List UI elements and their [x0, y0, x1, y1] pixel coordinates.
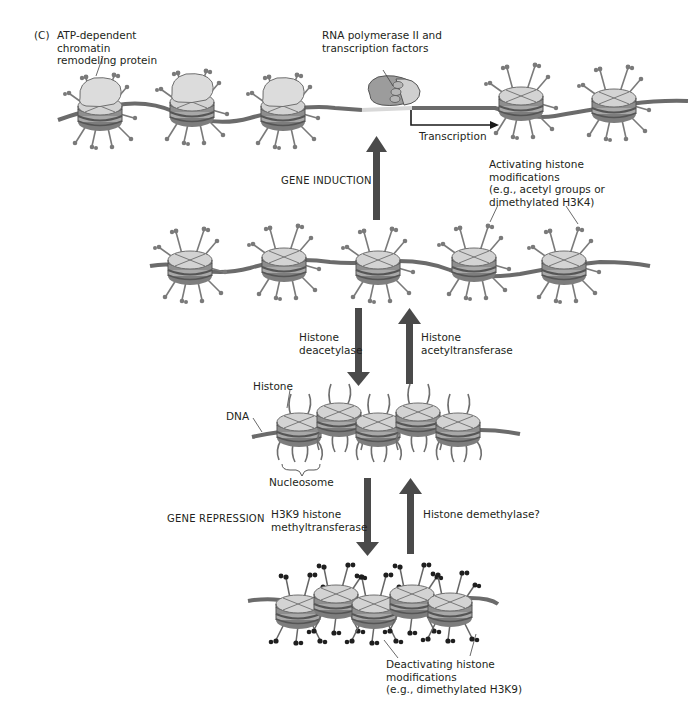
gene-repression-label: GENE REPRESSION [167, 513, 265, 524]
chromatin-diagram [0, 0, 699, 725]
row-activated [150, 205, 650, 304]
rna-polymerase [368, 76, 420, 106]
panel-label: (C) [34, 29, 50, 42]
nucleosome-brace [282, 464, 320, 476]
transcription-label: Transcription [419, 130, 487, 143]
row-repressed [248, 562, 498, 658]
remodeler-label: ATP-dependent chromatin remodeling prote… [57, 29, 157, 67]
methyltransferase-label: H3K9 histone methyltransferase [271, 508, 367, 533]
row-transcribing [58, 56, 688, 150]
histone-label: Histone [253, 380, 293, 393]
activating-label: Activating histone modifications (e.g., … [489, 158, 605, 208]
demethylase-arrow [399, 478, 422, 554]
dna-label: DNA [226, 410, 249, 423]
transcription-arrow [411, 110, 490, 125]
row-unmodified [252, 384, 520, 476]
deacetylase-label: Histone deacetylase [299, 331, 362, 356]
deactivating-label: Deactivating histone modifications (e.g.… [386, 658, 522, 696]
polymerase-label: RNA polymerase II and transcription fact… [322, 29, 442, 54]
acetyltransferase-arrow [398, 308, 421, 384]
acetyltransferase-label: Histone acetyltransferase [421, 331, 513, 356]
gene-induction-label: GENE INDUCTION [281, 175, 372, 186]
demethylase-label: Histone demethylase? [423, 508, 540, 521]
nucleosome-label: Nucleosome [269, 476, 334, 489]
